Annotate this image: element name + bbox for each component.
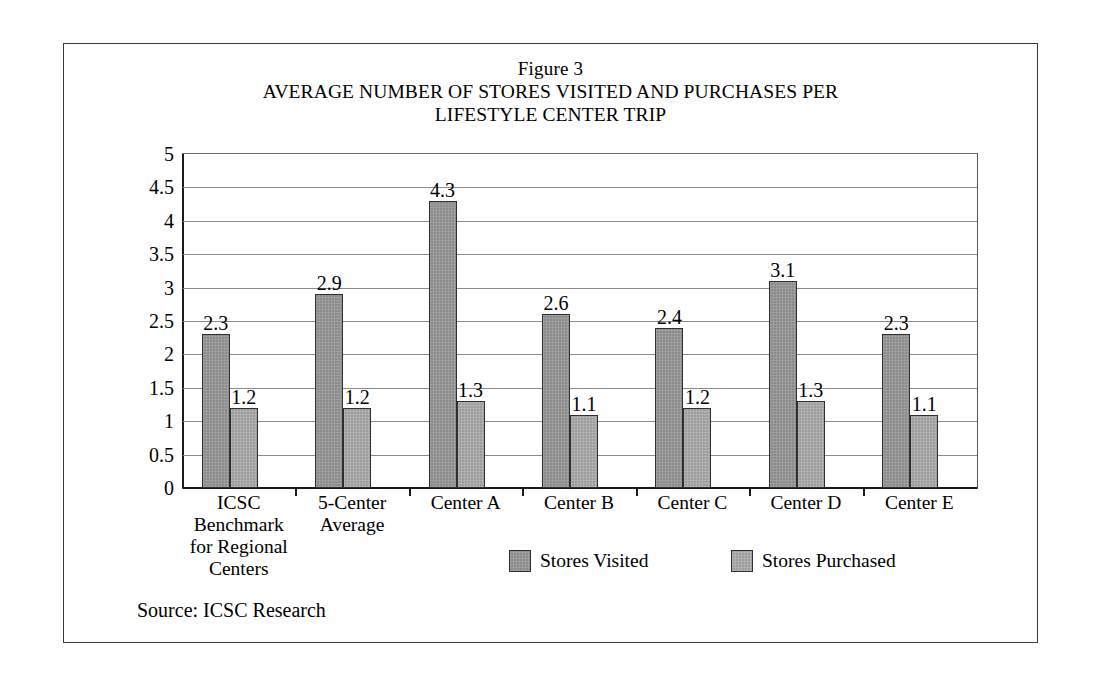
gridline <box>183 187 977 188</box>
bar: 1.1 <box>570 415 598 488</box>
bar-value-label: 2.4 <box>657 307 682 327</box>
category-label-line: Center C <box>636 492 749 514</box>
y-axis-tick-label: 5 <box>164 144 174 164</box>
x-axis-category-label: Center A <box>409 492 522 514</box>
x-axis-category-label: Center B <box>522 492 635 514</box>
bar: 1.3 <box>457 401 485 488</box>
y-axis-tick-label: 4.5 <box>149 177 174 197</box>
bar-value-label: 2.3 <box>884 313 909 333</box>
y-axis-tick-label: 4 <box>164 211 174 231</box>
category-label-line: Center B <box>522 492 635 514</box>
category-label-line: 5-Center <box>295 492 408 514</box>
y-axis-tick-label: 1.5 <box>149 378 174 398</box>
bar-value-label: 1.2 <box>345 387 370 407</box>
chart-legend: Stores VisitedStores Purchased <box>182 550 976 580</box>
gridline <box>183 354 977 355</box>
y-axis-tick-label: 1 <box>164 411 174 431</box>
plot-area: 54.543.532.521.510.50 2.31.22.91.24.31.3… <box>182 153 978 489</box>
bar-value-label: 1.1 <box>572 394 597 414</box>
bar-value-label: 1.1 <box>912 394 937 414</box>
title-block: Figure 3 AVERAGE NUMBER OF STORES VISITE… <box>64 58 1037 126</box>
source-note: Source: ICSC Research <box>137 600 326 620</box>
legend-label: Stores Visited <box>540 551 648 571</box>
bar: 1.1 <box>910 415 938 488</box>
x-axis-category-label: Center C <box>636 492 749 514</box>
figure-number: Figure 3 <box>64 58 1037 80</box>
bar-value-label: 3.1 <box>770 260 795 280</box>
bar: 2.9 <box>315 294 343 488</box>
x-axis-category-label: Center E <box>863 492 976 514</box>
category-label-line: Center A <box>409 492 522 514</box>
bar: 1.3 <box>797 401 825 488</box>
bar: 2.4 <box>655 328 683 488</box>
y-axis-tick-label: 3 <box>164 278 174 298</box>
category-label-line: Benchmark <box>182 514 295 536</box>
bar-value-label: 1.3 <box>458 380 483 400</box>
y-axis-tick-label: 0 <box>164 478 174 498</box>
category-label-line: Center E <box>863 492 976 514</box>
bar-value-label: 2.6 <box>544 293 569 313</box>
x-axis-category-label: Center D <box>749 492 862 514</box>
y-axis-tick-label: 2 <box>164 344 174 364</box>
bar: 4.3 <box>429 201 457 488</box>
bar: 2.3 <box>882 334 910 488</box>
legend-entry: Stores Visited <box>509 550 648 572</box>
chart-title-line-0: AVERAGE NUMBER OF STORES VISITED AND PUR… <box>64 81 1037 104</box>
gridline <box>183 221 977 222</box>
bar: 1.2 <box>683 408 711 488</box>
legend-label: Stores Purchased <box>762 551 896 571</box>
chart-title: AVERAGE NUMBER OF STORES VISITED AND PUR… <box>64 81 1037 126</box>
bar-value-label: 1.2 <box>685 387 710 407</box>
y-axis-tick-label: 0.5 <box>149 445 174 465</box>
bar-value-label: 2.3 <box>203 313 228 333</box>
category-label-line: ICSC <box>182 492 295 514</box>
gridline <box>183 388 977 389</box>
gridline <box>183 254 977 255</box>
x-axis-category-label: 5-CenterAverage <box>295 492 408 536</box>
bar-value-label: 1.2 <box>231 387 256 407</box>
gridline <box>183 288 977 289</box>
legend-color-swatch <box>731 550 753 572</box>
bar: 1.2 <box>230 408 258 488</box>
bar-value-label: 1.3 <box>798 380 823 400</box>
bar: 3.1 <box>769 281 797 488</box>
chart-title-line-1: LIFESTYLE CENTER TRIP <box>64 104 1037 127</box>
bar: 2.6 <box>542 314 570 488</box>
bar-value-label: 2.9 <box>317 273 342 293</box>
bar: 1.2 <box>343 408 371 488</box>
category-label-line: Center D <box>749 492 862 514</box>
legend-entry: Stores Purchased <box>731 550 896 572</box>
legend-color-swatch <box>509 550 531 572</box>
y-axis-tick-label: 3.5 <box>149 244 174 264</box>
bar-value-label: 4.3 <box>430 180 455 200</box>
figure-frame: Figure 3 AVERAGE NUMBER OF STORES VISITE… <box>63 43 1038 643</box>
gridline <box>183 321 977 322</box>
bar: 2.3 <box>202 334 230 488</box>
category-label-line: Average <box>295 514 408 536</box>
y-axis-tick-label: 2.5 <box>149 311 174 331</box>
